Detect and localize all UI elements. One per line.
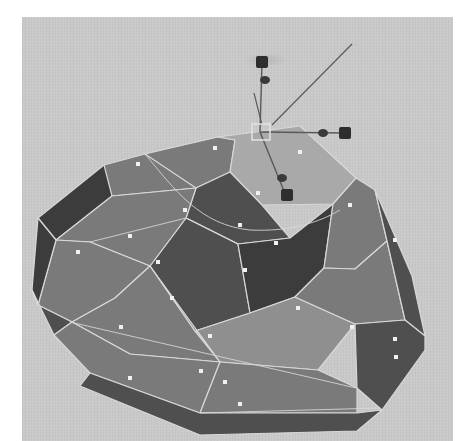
face-center-dot [170,296,174,300]
face-center-dot [256,191,260,195]
face-center-dot [156,260,160,264]
view-direction-line [272,44,352,125]
face-center-dot [76,250,80,254]
face-center-dot [128,376,132,380]
face-center-dot [238,223,242,227]
axis-cone-handle[interactable] [277,174,287,182]
face-center-dot [274,241,278,245]
axis-cone-handle[interactable] [318,129,328,137]
face-center-dot [223,380,227,384]
face-center-dot [238,402,242,406]
axis-line [260,132,345,133]
face-center-dot [393,238,397,242]
scene-canvas[interactable] [22,17,453,441]
3d-viewport[interactable] [22,17,453,441]
face-center-dot [296,306,300,310]
axis-cube-handle[interactable] [339,127,351,139]
manipulator-axis-y[interactable] [256,56,270,132]
face-center-dot [119,325,123,329]
mesh-faces[interactable] [32,126,425,435]
face-center-dot [128,234,132,238]
face-center-dot [394,355,398,359]
axis-cube-handle[interactable] [256,56,268,68]
axis-cone-handle[interactable] [260,76,270,84]
face-center-dot [208,334,212,338]
face-center-dot [298,150,302,154]
axis-cube-handle[interactable] [281,189,293,201]
face-center-dot [136,162,140,166]
face-center-dot [199,369,203,373]
face-center-dot [348,203,352,207]
face-center-dot [243,268,247,272]
face-center-dot [393,337,397,341]
face-center-dot [350,325,354,329]
face-center-dot [213,146,217,150]
face-center-dot [183,208,187,212]
mesh-face-rim-right-lower[interactable] [355,320,425,410]
